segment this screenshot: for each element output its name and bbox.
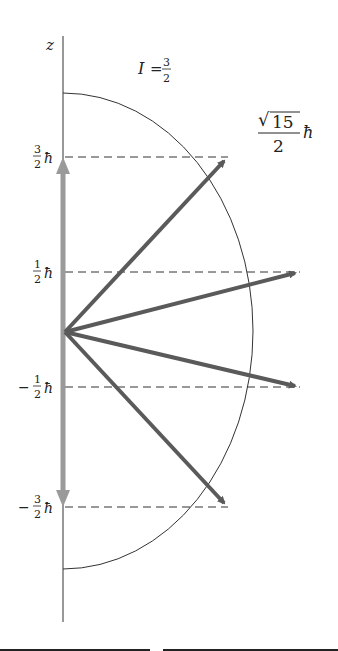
svg-text:2: 2 <box>273 136 284 156</box>
svg-text:ħ: ħ <box>44 500 53 516</box>
svg-text:−: − <box>18 499 30 515</box>
svg-text:√: √ <box>258 109 270 130</box>
level-label-neg-3-2: − 3 2 ħ <box>18 493 53 521</box>
svg-text:−: − <box>18 379 30 395</box>
svg-text:3: 3 <box>34 493 41 506</box>
magnitude-arc <box>63 93 253 569</box>
level-lines <box>65 157 300 507</box>
svg-text:3: 3 <box>34 143 41 156</box>
svg-text:1: 1 <box>34 258 41 271</box>
spin-vectors <box>65 161 295 503</box>
level-label-3-2: 3 2 ħ <box>33 143 53 171</box>
spin-label: I = 3 2 <box>137 56 171 85</box>
svg-text:15: 15 <box>272 112 294 132</box>
svg-text:2: 2 <box>34 273 41 286</box>
svg-text:2: 2 <box>34 508 41 521</box>
svg-text:ħ: ħ <box>44 150 53 166</box>
svg-text:ħ: ħ <box>44 380 53 396</box>
svg-text:1: 1 <box>34 373 41 386</box>
svg-text:2: 2 <box>34 388 41 401</box>
spin-diagram: z I = 3 2 √ 15 2 ħ 3 2 ħ 1 2 ħ − 1 2 ħ −… <box>0 0 338 651</box>
svg-text:ħ: ħ <box>303 123 313 142</box>
svg-text:=: = <box>150 60 163 78</box>
svg-text:2: 2 <box>163 72 170 85</box>
z-axis-label: z <box>45 36 54 54</box>
svg-text:I: I <box>137 59 145 78</box>
svg-text:ħ: ħ <box>44 265 53 281</box>
level-label-1-2: 1 2 ħ <box>33 258 53 286</box>
svg-text:3: 3 <box>163 56 170 69</box>
magnitude-label: √ 15 2 ħ <box>258 109 313 156</box>
svg-text:2: 2 <box>34 158 41 171</box>
level-label-neg-1-2: − 1 2 ħ <box>18 373 53 401</box>
